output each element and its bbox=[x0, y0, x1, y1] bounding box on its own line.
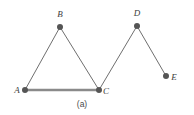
graph-node-label-b: B bbox=[57, 9, 63, 19]
graph-node-label-a: A bbox=[13, 85, 20, 95]
edges-layer bbox=[25, 26, 166, 90]
nodes-layer bbox=[22, 23, 169, 93]
graph-node-label-c: C bbox=[103, 86, 110, 96]
graph-node-e bbox=[163, 73, 169, 79]
graph-edge-b-c bbox=[60, 27, 99, 90]
graph-edge-a-b bbox=[25, 27, 60, 90]
figure-container: ABCDE (a) bbox=[0, 0, 194, 115]
graph-node-label-d: D bbox=[133, 8, 141, 18]
graph-node-a bbox=[22, 87, 28, 93]
figure-caption: (a) bbox=[77, 99, 88, 109]
graph-node-label-e: E bbox=[170, 72, 177, 82]
graph-edge-c-d bbox=[99, 26, 137, 90]
graph-node-b bbox=[57, 24, 63, 30]
graph-node-d bbox=[134, 23, 140, 29]
graph-edge-d-e bbox=[137, 26, 166, 76]
graph-node-c bbox=[96, 87, 102, 93]
graph-diagram: ABCDE (a) bbox=[0, 0, 194, 115]
